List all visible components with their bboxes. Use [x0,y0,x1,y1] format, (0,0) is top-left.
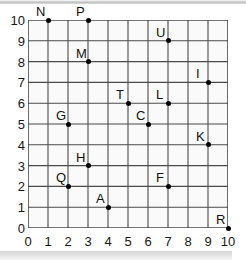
data-point-f [166,184,171,189]
point-label-p: P [76,5,85,18]
data-point-t [126,101,131,106]
point-label-i: I [196,67,200,80]
x-axis-tick-6: 6 [138,235,158,248]
data-point-p [86,18,91,23]
point-label-u: U [156,26,165,39]
point-label-l: L [156,88,163,101]
y-axis-tick-8: 8 [1,56,25,69]
x-axis-tick-4: 4 [98,235,118,248]
x-axis-tick-3: 3 [78,235,98,248]
y-axis-tick-5: 5 [1,118,25,131]
y-axis-tick-2: 2 [1,180,25,193]
y-axis-tick-3: 3 [1,160,25,173]
data-point-c [146,122,151,127]
point-label-t: T [116,88,124,101]
y-axis-tick-0: 0 [1,222,25,235]
x-axis-tick-9: 9 [198,235,218,248]
y-axis-tick-1: 1 [1,201,25,214]
point-label-h: H [76,151,85,164]
point-label-f: F [156,171,164,184]
data-point-i [206,80,211,85]
x-axis-tick-2: 2 [58,235,78,248]
coordinate-grid-figure: 012345678910 012345678910 NPUMITLGCKHQFA… [0,0,246,264]
y-axis-tick-6: 6 [1,97,25,110]
x-axis-tick-7: 7 [158,235,178,248]
point-label-g: G [56,109,66,122]
point-label-a: A [96,192,105,205]
data-point-k [206,142,211,147]
y-axis-tick-10: 10 [1,14,25,27]
point-label-c: C [136,109,145,122]
data-point-u [166,38,171,43]
data-point-a [106,205,111,210]
scan-band-bottom [0,251,232,260]
x-axis-tick-1: 1 [38,235,58,248]
point-label-q: Q [56,171,66,184]
data-point-g [66,122,71,127]
data-point-q [66,184,71,189]
y-axis-tick-7: 7 [1,76,25,89]
point-label-m: M [76,47,87,60]
point-label-k: K [196,130,205,143]
grid-lines [28,20,228,228]
point-label-n: N [36,5,45,18]
point-label-r: R [216,213,225,226]
data-point-r [226,226,231,231]
x-axis-tick-0: 0 [18,235,38,248]
y-axis-tick-4: 4 [1,139,25,152]
x-axis-tick-8: 8 [178,235,198,248]
x-axis-tick-5: 5 [118,235,138,248]
data-point-l [166,101,171,106]
plot-area [28,20,228,228]
x-axis-tick-10: 10 [218,235,238,248]
y-axis-tick-9: 9 [1,35,25,48]
data-point-h [86,163,91,168]
data-point-n [46,18,51,23]
